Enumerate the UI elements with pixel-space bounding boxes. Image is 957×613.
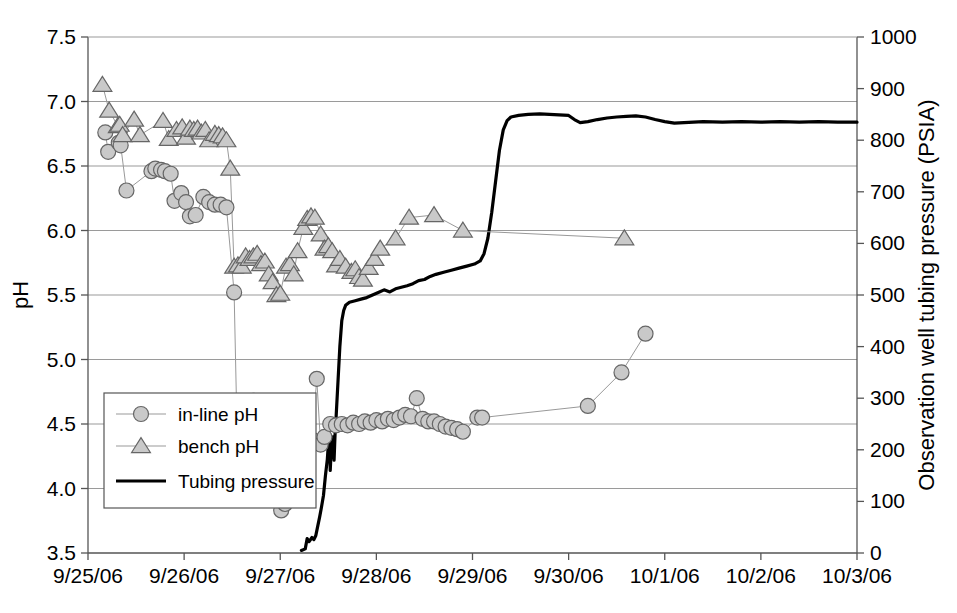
y-tick-label-right: 600 (870, 231, 905, 254)
y-tick-label-left: 7.5 (47, 25, 76, 48)
data-point-in-line-ph (119, 183, 134, 198)
data-point-in-line-ph (163, 166, 178, 181)
y-tick-label-right: 800 (870, 128, 905, 151)
legend-label-line: Tubing pressure (178, 471, 315, 492)
x-tick-label: 9/26/06 (149, 564, 219, 587)
y-tick-label-left: 4.0 (47, 477, 76, 500)
y-tick-label-right: 300 (870, 386, 905, 409)
data-point-bench-ph (288, 243, 307, 258)
x-tick-label: 9/25/06 (53, 564, 123, 587)
data-point-in-line-ph (614, 365, 629, 380)
y-tick-label-right: 200 (870, 438, 905, 461)
y-tick-label-left: 3.5 (47, 541, 76, 564)
data-point-in-line-ph (179, 195, 194, 210)
data-point-bench-ph (425, 207, 444, 222)
y-tick-label-right: 500 (870, 283, 905, 306)
legend-label-triangle: bench pH (178, 436, 259, 457)
data-point-bench-ph (131, 127, 150, 142)
data-point-bench-ph (453, 222, 472, 237)
data-point-in-line-ph (309, 371, 324, 386)
y-tick-label-left: 6.5 (47, 154, 76, 177)
data-point-bench-ph (371, 240, 390, 255)
x-tick-label: 10/3/06 (822, 564, 892, 587)
data-point-bench-ph (93, 76, 112, 91)
data-point-in-line-ph (219, 200, 234, 215)
y-tick-label-right: 700 (870, 180, 905, 203)
data-point-bench-ph (221, 160, 240, 175)
x-tick-label: 10/1/06 (630, 564, 700, 587)
y-tick-label-left: 5.5 (47, 283, 76, 306)
x-tick-label: 9/27/06 (245, 564, 315, 587)
data-point-bench-ph (386, 230, 405, 245)
y-tick-label-left: 4.5 (47, 412, 76, 435)
legend-label-circle: in-line pH (178, 404, 258, 425)
data-point-bench-ph (154, 112, 173, 127)
data-point-in-line-ph (409, 391, 424, 406)
y-tick-label-right: 900 (870, 77, 905, 100)
ph-pressure-chart: 3.54.04.55.05.56.06.57.07.50100200300400… (0, 0, 957, 613)
x-tick-label: 10/2/06 (726, 564, 796, 587)
pressure-line (301, 114, 857, 551)
data-point-in-line-ph (580, 398, 595, 413)
x-tick-label: 9/30/06 (534, 564, 604, 587)
y-tick-label-left: 7.0 (47, 90, 76, 113)
y-axis-title-right: Observation well tubing pressure (PSIA) (914, 99, 939, 490)
data-point-in-line-ph (188, 208, 203, 223)
data-point-in-line-ph (227, 285, 242, 300)
y-tick-label-right: 1000 (870, 25, 917, 48)
legend-marker-in-line-ph (134, 407, 149, 422)
y-tick-label-right: 100 (870, 489, 905, 512)
data-point-bench-ph (100, 102, 119, 117)
x-tick-label: 9/29/06 (437, 564, 507, 587)
y-tick-label-right: 400 (870, 335, 905, 358)
x-tick-label: 9/28/06 (341, 564, 411, 587)
data-point-in-line-ph (455, 424, 470, 439)
data-point-in-line-ph (475, 410, 490, 425)
y-tick-label-right: 0 (870, 541, 882, 564)
y-tick-label-left: 5.0 (47, 348, 76, 371)
data-point-bench-ph (125, 111, 144, 126)
y-tick-label-left: 6.0 (47, 219, 76, 242)
data-point-bench-ph (615, 230, 634, 245)
y-axis-title-left: pH (8, 281, 33, 309)
chart-container: 3.54.04.55.05.56.06.57.07.50100200300400… (0, 0, 957, 613)
data-point-in-line-ph (638, 326, 653, 341)
